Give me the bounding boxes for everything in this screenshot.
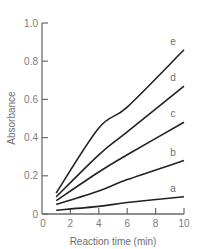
x-tick-label: 2 [68,218,74,229]
x-tick-label: 10 [178,218,190,229]
y-tick-label: 0.4 [24,132,38,143]
x-tick-label: 4 [96,218,102,229]
x-tick-label: 8 [153,218,159,229]
y-tick-label: 1.0 [24,18,38,29]
series-label-a: a [170,183,176,194]
series-label-e: e [170,36,176,47]
series-line-e [56,50,184,193]
series-line-b [56,161,184,205]
absorbance-chart: 00.20.40.60.81.0 0246810 Absorbance Reac… [0,0,199,249]
data-series: abcde [56,36,184,210]
x-ticks: 0246810 [40,208,190,229]
series-label-d: d [170,72,176,83]
series-line-d [56,86,184,197]
x-tick-label: 0 [40,218,46,229]
y-axis-title: Absorbance [6,91,17,145]
series-label-b: b [170,147,176,158]
y-tick-label: 0.6 [24,94,38,105]
y-tick-label: 0 [32,209,38,220]
series-label-c: c [171,108,176,119]
x-tick-label: 6 [124,218,130,229]
x-axis-title: Reaction time (min) [70,236,157,247]
y-tick-label: 0.2 [24,170,38,181]
y-ticks: 00.20.40.60.81.0 [24,18,48,220]
y-tick-label: 0.8 [24,56,38,67]
